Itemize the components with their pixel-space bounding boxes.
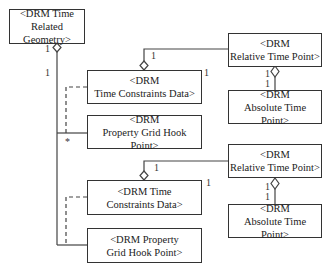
box-relative-time-point-1: <DRM Relative Time Point> bbox=[228, 33, 322, 67]
box-property-grid-hook-point-1: <DRM Property Grid Hook Point> bbox=[87, 115, 202, 149]
multiplicity-label: 1 bbox=[206, 178, 211, 188]
aggregation-diamond bbox=[140, 171, 148, 180]
box-relative-time-point-2: <DRM Relative Time Point> bbox=[228, 144, 322, 178]
box-label: <DRM bbox=[260, 88, 290, 101]
multiplicity-label: 1 bbox=[265, 192, 270, 202]
box-absolute-time-point-2: <DRM Absolute Time Point> bbox=[228, 204, 322, 238]
box-time-constraints-data-1: <DRM Time Constraints Data> bbox=[87, 70, 202, 104]
box-label: <DRM bbox=[130, 113, 160, 126]
aggregation-diamond bbox=[271, 66, 279, 77]
box-label: Relative Time Point> bbox=[230, 161, 320, 174]
box-label: Relative Time Point> bbox=[230, 50, 320, 63]
box-label: Absolute Time Point> bbox=[229, 215, 321, 241]
multiplicity-label: * bbox=[65, 137, 70, 147]
box-label: <DRM bbox=[260, 148, 290, 161]
multiplicity-label: 1 bbox=[265, 79, 270, 89]
box-label: <DRM Time bbox=[117, 185, 171, 198]
multiplicity-label: 1 bbox=[151, 51, 156, 61]
box-absolute-time-point-1: <DRM Absolute Time Point> bbox=[228, 90, 322, 124]
multiplicity-label: 1 bbox=[45, 44, 50, 54]
box-label: <DRM Property bbox=[110, 233, 179, 246]
box-time-constraints-data-2: <DRM Time Constraints Data> bbox=[87, 180, 202, 215]
multiplicity-label: 1 bbox=[204, 68, 209, 78]
box-label: <DRM bbox=[260, 202, 290, 215]
box-time-related-geometry: <DRM Time Related Geometry> bbox=[9, 9, 85, 44]
box-label: Constraints Data> bbox=[106, 198, 182, 211]
multiplicity-label: 1 bbox=[154, 163, 159, 173]
multiplicity-label: 1 bbox=[45, 68, 50, 78]
aggregation-diamond bbox=[271, 178, 279, 189]
box-label: Property Grid Hook Point> bbox=[88, 126, 201, 152]
box-label: Grid Hook Point> bbox=[107, 246, 183, 259]
box-property-grid-hook-point-2: <DRM Property Grid Hook Point> bbox=[87, 228, 202, 263]
box-label: <DRM Time bbox=[20, 7, 74, 20]
box-label: <DRM bbox=[130, 74, 160, 87]
aggregation-diamond bbox=[140, 61, 148, 70]
box-label: Absolute Time Point> bbox=[229, 101, 321, 127]
box-label: Time Constraints Data> bbox=[94, 87, 195, 100]
box-label: <DRM bbox=[260, 37, 290, 50]
